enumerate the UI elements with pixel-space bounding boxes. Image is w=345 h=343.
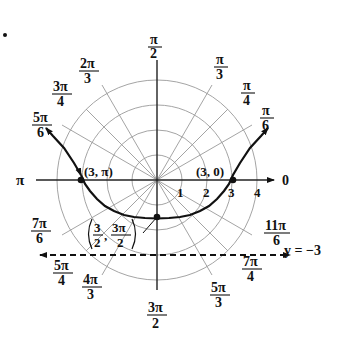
svg-text:2: 2 — [203, 185, 210, 200]
label-point-vertex: 3 2 , 3π 2 — [89, 219, 136, 250]
label-point-3-0: (3, 0) — [196, 164, 224, 179]
vertex-leader-line — [143, 217, 157, 233]
svg-text:3: 3 — [84, 71, 91, 86]
svg-text:5π: 5π — [211, 280, 226, 295]
svg-text:3π: 3π — [148, 300, 163, 315]
svg-text:2π: 2π — [80, 56, 95, 71]
angle-label-pi: π — [16, 172, 25, 188]
svg-text:π: π — [262, 103, 270, 118]
svg-text:2: 2 — [94, 235, 101, 250]
svg-text:,: , — [104, 228, 107, 243]
svg-text:π: π — [216, 52, 224, 67]
polar-graph: 1 2 3 4 (3, π) (3, 0) 3 2 , 3π 2 π 2 π 3… — [0, 0, 345, 343]
svg-text:1: 1 — [177, 185, 184, 200]
svg-text:6: 6 — [262, 118, 269, 133]
svg-text:4: 4 — [254, 185, 261, 200]
angle-label-2pi-3: 2π 3 — [79, 56, 99, 86]
angle-label-pi-2: π 2 — [148, 32, 162, 61]
directrix-label: y = −3 — [284, 243, 321, 258]
point-3-0 — [230, 177, 237, 184]
angle-label-pi-3: π 3 — [214, 52, 228, 82]
angle-label-5pi-3: 5π 3 — [210, 280, 230, 310]
angle-label-pi-4: π 4 — [241, 78, 255, 108]
svg-text:4: 4 — [58, 273, 65, 288]
angle-label-0: 0 — [282, 173, 289, 188]
parabola-left-tail — [46, 128, 81, 175]
svg-text:3: 3 — [87, 287, 94, 302]
svg-text:6: 6 — [37, 125, 44, 140]
svg-text:4: 4 — [247, 269, 254, 284]
svg-text:5π: 5π — [54, 258, 69, 273]
angle-label-7pi-4: 7π 4 — [242, 254, 262, 284]
svg-text:4: 4 — [57, 94, 64, 109]
svg-text:2: 2 — [150, 46, 157, 61]
svg-text:4: 4 — [243, 93, 250, 108]
angle-label-3pi-4: 3π 4 — [52, 79, 72, 109]
label-point-3-pi: (3, π) — [84, 164, 113, 179]
svg-text:3: 3 — [216, 67, 223, 82]
angle-label-5pi-6: 5π 6 — [32, 110, 52, 140]
svg-text:7π: 7π — [32, 216, 47, 231]
svg-text:π: π — [243, 78, 251, 93]
svg-text:2: 2 — [117, 235, 124, 250]
svg-text:6: 6 — [36, 231, 43, 246]
svg-text:3: 3 — [94, 220, 101, 235]
angle-label-4pi-3: 4π 3 — [82, 272, 102, 302]
svg-text:4π: 4π — [83, 272, 98, 287]
svg-text:2: 2 — [152, 316, 159, 331]
svg-text:6: 6 — [273, 233, 280, 248]
angle-label-7pi-6: 7π 6 — [31, 216, 51, 246]
angle-label-3pi-2: 3π 2 — [147, 300, 167, 331]
svg-text:3: 3 — [228, 185, 235, 200]
svg-text:11π: 11π — [265, 218, 286, 233]
svg-text:7π: 7π — [243, 254, 258, 269]
svg-text:π: π — [150, 32, 158, 47]
svg-text:3π: 3π — [112, 220, 126, 235]
svg-text:3: 3 — [215, 295, 222, 310]
svg-text:5π: 5π — [33, 110, 48, 125]
angle-label-5pi-4: 5π 4 — [53, 258, 73, 288]
svg-text:3π: 3π — [53, 79, 68, 94]
angle-label-pi-6: π 6 — [260, 103, 274, 133]
